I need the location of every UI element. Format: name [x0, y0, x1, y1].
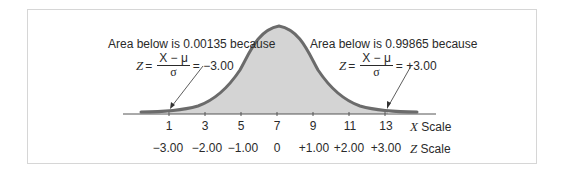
z-tick-label: 0	[274, 141, 281, 155]
z-tick-label: −1.00	[228, 141, 258, 155]
right-z-formula: Z = X − μ σ = +3.00	[339, 52, 437, 79]
denominator: σ	[170, 66, 176, 79]
z-tick-label: +3.00	[371, 141, 401, 155]
z-result: = +3.00	[396, 59, 437, 73]
z-symbol: Z	[339, 58, 346, 74]
left-z-formula: Z = X − μ σ = −3.00	[136, 52, 234, 79]
z-tick-label: −3.00	[153, 141, 183, 155]
z-tick-label: −2.00	[192, 141, 222, 155]
z-tick-label: +1.00	[299, 141, 329, 155]
equals-sign: =	[348, 59, 355, 73]
numerator: X − μ	[157, 52, 190, 66]
z-tick-label: +2.00	[334, 141, 364, 155]
z-scale-word: Scale	[417, 142, 450, 156]
x-tick-label: 1	[166, 119, 173, 133]
left-annotation-text: Area below is 0.00135 because	[108, 37, 275, 51]
fraction: X − μ σ	[157, 52, 190, 79]
x-scale-var: X	[410, 119, 418, 134]
x-tick-label: 5	[238, 119, 245, 133]
denominator: σ	[373, 66, 379, 79]
x-tick-label: 11	[344, 119, 356, 133]
normal-curve-plot	[0, 0, 566, 177]
z-result: = −3.00	[193, 59, 234, 73]
equals-sign: =	[145, 59, 152, 73]
fraction: X − μ σ	[360, 52, 393, 79]
x-tick-label: 9	[310, 119, 317, 133]
x-scale-label: X Scale	[410, 119, 451, 135]
x-scale-word: Scale	[418, 120, 451, 134]
x-tick-label: 7	[274, 119, 281, 133]
z-symbol: Z	[136, 58, 143, 74]
right-annotation-text: Area below is 0.99865 because	[310, 37, 477, 51]
x-tick-label: 3	[202, 119, 209, 133]
numerator: X − μ	[360, 52, 393, 66]
z-scale-label: Z Scale	[410, 141, 451, 157]
x-tick-label: 13	[379, 119, 392, 133]
